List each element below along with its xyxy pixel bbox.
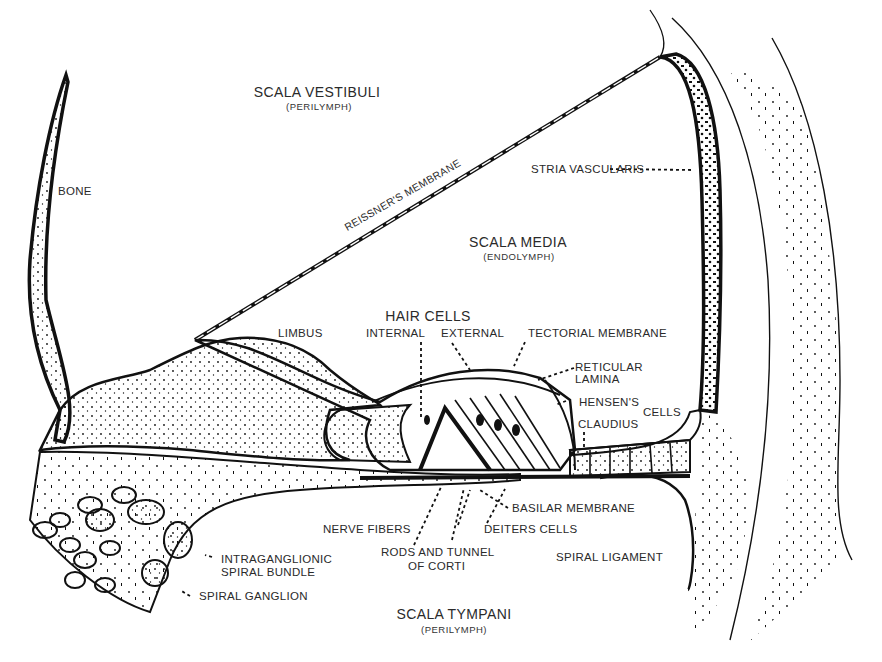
- scala-tympani-label: SCALA TYMPANI: [396, 607, 511, 621]
- spiral-ganglion-label: SPIRAL GANGLION: [199, 591, 308, 603]
- nerve-fibers-label: NERVE FIBERS: [323, 524, 411, 536]
- scala-media-fluid: (ENDOLYMPH): [483, 252, 554, 262]
- claudius-label: CLAUDIUS: [578, 419, 639, 431]
- scala-media-label: SCALA MEDIA: [469, 235, 567, 249]
- hensens-label: HENSEN'S: [579, 397, 639, 409]
- reticular-lamina-label-2: LAMINA: [575, 374, 620, 386]
- tectorial-membrane-label: TECTORIAL MEMBRANE: [528, 328, 667, 340]
- rods-tunnel-label-1: RODS AND TUNNEL: [381, 547, 495, 559]
- hair-cells-label: HAIR CELLS: [385, 309, 471, 323]
- bone-label: BONE: [58, 186, 92, 198]
- spiral-ligament-label: SPIRAL LIGAMENT: [556, 552, 663, 564]
- deiters-cells-label: DEITERS CELLS: [484, 524, 577, 536]
- internal-hair-cells-label: INTERNAL: [366, 328, 425, 340]
- scala-vestibuli-fluid: (PERILYMPH): [286, 102, 352, 112]
- basilar-membrane-label: BASILAR MEMBRANE: [512, 503, 635, 515]
- reticular-lamina-label-1: RETICULAR: [575, 362, 643, 374]
- cells-label: CELLS: [643, 407, 681, 419]
- limbus-label: LIMBUS: [278, 328, 323, 340]
- intraganglionic-label-2: SPIRAL BUNDLE: [221, 567, 315, 579]
- scala-tympani-fluid: (PERILYMPH): [421, 625, 487, 635]
- rods-tunnel-label-2: OF CORTI: [408, 561, 465, 573]
- external-hair-cells-label: EXTERNAL: [441, 328, 504, 340]
- bone-structure: [29, 75, 70, 442]
- scala-vestibuli-label: SCALA VESTIBULI: [254, 85, 381, 99]
- stria-vascularis-label: STRIA VASCULARIS: [531, 164, 644, 176]
- intraganglionic-label-1: INTRAGANGLIONIC: [221, 554, 332, 566]
